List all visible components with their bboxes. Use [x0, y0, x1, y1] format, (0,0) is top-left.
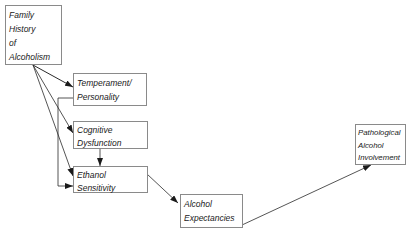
node-label-line: Sensitivity — [77, 182, 144, 195]
node-label-line: Ethanol — [77, 169, 144, 182]
edge-ethanol-to-expectancies — [147, 174, 178, 203]
node-label-line: Family — [9, 8, 58, 22]
node-label-line: Personality — [77, 90, 143, 104]
edge-expectancies-to-pathological — [242, 165, 371, 225]
node-label-line: Alcoholism — [9, 50, 58, 64]
node-label-line: History — [9, 22, 58, 36]
edge-family-to-temperament — [33, 65, 73, 87]
node-label-line: Temperament/ — [77, 76, 143, 90]
node-cognitive-dysfunction: Cognitive Dysfunction — [73, 121, 148, 149]
node-label-line: Expectancies — [184, 211, 239, 225]
node-ethanol-sensitivity: Ethanol Sensitivity — [73, 166, 148, 193]
edge-family-to-ethanol — [33, 65, 73, 176]
edge-family-to-cognitive — [33, 65, 73, 133]
node-label-line: Dysfunction — [77, 137, 144, 150]
node-label-line: Alcohol — [184, 197, 239, 211]
node-family-history: Family History of Alcoholism — [5, 5, 62, 65]
node-pathological-alcohol-involvement: Pathological Alcohol Involvement — [355, 124, 406, 165]
node-label-line: Pathological — [358, 127, 403, 140]
node-alcohol-expectancies: Alcohol Expectancies — [180, 194, 243, 228]
node-label-line: Involvement — [358, 152, 403, 165]
node-temperament-personality: Temperament/ Personality — [73, 73, 147, 106]
node-label-line: of — [9, 36, 58, 50]
node-label-line: Alcohol — [358, 140, 403, 153]
node-label-line: Cognitive — [77, 124, 144, 137]
